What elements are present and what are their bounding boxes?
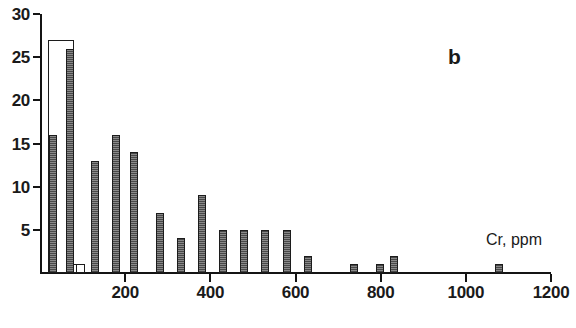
x-tick-1000 xyxy=(465,274,467,282)
y-tick-label-20: 20 xyxy=(0,92,30,109)
y-tick-25 xyxy=(33,56,40,58)
y-tick-label-25: 25 xyxy=(0,49,30,66)
x-tick-label-800: 800 xyxy=(351,284,411,301)
histogram-bar xyxy=(66,49,74,273)
histogram-bar xyxy=(376,264,384,273)
y-tick-30 xyxy=(33,13,40,15)
plot-area xyxy=(40,14,552,273)
x-axis-title: Cr, ppm xyxy=(486,232,542,248)
y-tick-label-15: 15 xyxy=(0,136,30,153)
histogram-bar xyxy=(495,264,503,273)
x-tick-label-400: 400 xyxy=(180,284,240,301)
histogram-bar xyxy=(177,238,185,273)
y-tick-15 xyxy=(33,143,40,145)
histogram-bar xyxy=(49,135,57,273)
x-tick-800 xyxy=(380,274,382,282)
x-tick-200 xyxy=(124,274,126,282)
x-tick-label-1000: 1000 xyxy=(436,284,496,301)
panel-label: b xyxy=(448,46,461,67)
histogram-bar xyxy=(261,230,269,273)
histogram-bar xyxy=(390,256,398,273)
histogram-figure: 51015202530 20040060080010001200 b Cr, p… xyxy=(0,0,576,328)
y-tick-label-5: 5 xyxy=(0,222,30,239)
histogram-bar xyxy=(91,161,99,273)
y-tick-10 xyxy=(33,186,40,188)
histogram-bar xyxy=(350,264,358,273)
y-tick-5 xyxy=(33,229,40,231)
histogram-bar xyxy=(304,256,312,273)
histogram-bar xyxy=(283,230,291,273)
y-tick-label-30: 30 xyxy=(0,6,30,23)
x-tick-label-200: 200 xyxy=(95,284,155,301)
histogram-bar xyxy=(130,152,138,273)
x-tick-1200 xyxy=(550,274,552,282)
histogram-bar xyxy=(156,213,164,273)
x-tick-label-600: 600 xyxy=(266,284,326,301)
y-tick-20 xyxy=(33,99,40,101)
y-tick-label-10: 10 xyxy=(0,179,30,196)
histogram-bar xyxy=(76,264,85,273)
histogram-bar xyxy=(240,230,248,273)
histogram-bar xyxy=(112,135,120,273)
histogram-bar xyxy=(219,230,227,273)
x-tick-600 xyxy=(295,274,297,282)
x-tick-label-1200: 1200 xyxy=(521,284,576,301)
x-tick-400 xyxy=(209,274,211,282)
histogram-bar xyxy=(198,195,206,273)
